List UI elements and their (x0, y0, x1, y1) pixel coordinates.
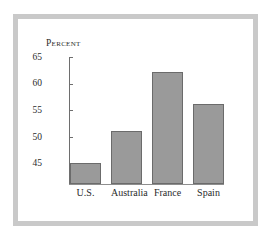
y-tick-label-wrap: 60 (46, 84, 73, 85)
y-tick-label-wrap: 50 (46, 137, 73, 138)
bar-slot (111, 57, 142, 184)
y-tick-label: 55 (33, 106, 43, 116)
x-axis-labels: U.S.AustraliaFranceSpain (46, 188, 224, 204)
y-tick-label: 45 (33, 159, 43, 169)
x-tick-label: France (152, 188, 183, 198)
bar-u-s[interactable] (70, 163, 101, 184)
y-tick-label: 65 (33, 53, 43, 63)
chart-frame: Percent 4550556065 U.S.AustraliaFranceSp… (13, 14, 258, 226)
bar-australia[interactable] (111, 131, 142, 184)
x-tick-label: Australia (111, 188, 142, 198)
bar-slot (70, 57, 101, 184)
plot-area: 4550556065 (46, 57, 224, 185)
bar-slot (152, 57, 183, 184)
x-tick-label: U.S. (70, 188, 101, 198)
y-tick-label: 60 (33, 79, 43, 89)
chart-panel: Percent 4550556065 U.S.AustraliaFranceSp… (18, 19, 253, 221)
bar-france[interactable] (152, 72, 183, 184)
y-tick-label-wrap: 55 (46, 110, 73, 111)
x-axis-baseline (69, 184, 224, 185)
y-tick-label-wrap: 65 (46, 57, 73, 58)
y-tick-label: 50 (33, 133, 43, 143)
figure-root: Percent 4550556065 U.S.AustraliaFranceSp… (0, 0, 275, 242)
bar-slot (193, 57, 224, 184)
y-tick-label-wrap: 45 (46, 164, 73, 165)
chart-title: Percent (46, 38, 81, 48)
bars-layer (70, 57, 224, 184)
x-tick-label: Spain (193, 188, 224, 198)
bar-spain[interactable] (193, 104, 224, 184)
